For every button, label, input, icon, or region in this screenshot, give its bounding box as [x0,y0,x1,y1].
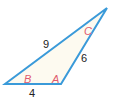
vertex-label-b: B [24,73,31,85]
triangle-diagram: B A C 9 6 4 [0,0,115,108]
vertex-label-c: C [84,25,92,37]
side-length-ac: 6 [81,52,87,64]
side-length-bc: 9 [43,38,49,50]
side-length-ba: 4 [29,87,35,99]
vertex-label-a: A [51,73,59,85]
